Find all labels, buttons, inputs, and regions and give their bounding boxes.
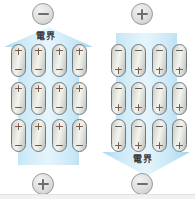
plus-icon bbox=[176, 67, 183, 74]
minus-icon bbox=[56, 104, 63, 111]
dipole bbox=[131, 119, 146, 152]
plus-icon bbox=[76, 123, 83, 130]
plus-icon bbox=[176, 142, 183, 149]
dipole bbox=[111, 82, 126, 115]
plus-icon bbox=[35, 85, 42, 92]
plus-icon bbox=[15, 48, 22, 55]
minus-icon bbox=[135, 48, 142, 55]
plus-icon bbox=[137, 9, 148, 20]
minus-icon bbox=[15, 142, 22, 149]
dipole bbox=[31, 119, 46, 152]
minus-icon bbox=[176, 48, 183, 55]
plus-icon bbox=[115, 104, 122, 111]
plus-icon bbox=[56, 123, 63, 130]
plus-icon bbox=[38, 179, 49, 190]
dipole bbox=[152, 82, 167, 115]
minus-icon bbox=[156, 85, 163, 92]
minus-icon bbox=[56, 142, 63, 149]
dipole bbox=[31, 44, 46, 77]
plus-icon bbox=[76, 48, 83, 55]
dipole bbox=[11, 119, 26, 152]
plus-icon bbox=[56, 48, 63, 55]
dipole bbox=[72, 44, 87, 77]
minus-icon bbox=[156, 123, 163, 130]
field-label-left: 電界 bbox=[36, 29, 55, 42]
plus-icon bbox=[135, 142, 142, 149]
dipole-grid-right bbox=[110, 44, 188, 154]
dipole bbox=[111, 44, 126, 77]
plus-icon bbox=[76, 85, 83, 92]
dipole bbox=[72, 119, 87, 152]
minus-icon bbox=[76, 104, 83, 111]
plus-icon bbox=[15, 123, 22, 130]
dipole bbox=[131, 82, 146, 115]
dipole bbox=[72, 82, 87, 115]
plus-icon bbox=[135, 67, 142, 74]
dipole bbox=[172, 44, 187, 77]
dipole bbox=[111, 119, 126, 152]
dipole bbox=[152, 44, 167, 77]
minus-icon bbox=[176, 85, 183, 92]
dipole bbox=[152, 119, 167, 152]
plus-icon bbox=[156, 67, 163, 74]
minus-icon bbox=[35, 142, 42, 149]
plus-icon bbox=[135, 104, 142, 111]
badge-bottom-left-plus bbox=[32, 173, 54, 195]
minus-icon bbox=[15, 67, 22, 74]
dipole bbox=[172, 82, 187, 115]
minus-icon bbox=[176, 123, 183, 130]
badge-top-left-minus bbox=[32, 3, 54, 25]
plus-icon bbox=[15, 85, 22, 92]
minus-icon bbox=[135, 123, 142, 130]
minus-icon bbox=[115, 48, 122, 55]
minus-icon bbox=[76, 142, 83, 149]
minus-icon bbox=[76, 67, 83, 74]
plus-icon bbox=[35, 48, 42, 55]
minus-icon bbox=[137, 179, 148, 190]
dipole bbox=[172, 119, 187, 152]
plus-icon bbox=[115, 67, 122, 74]
badge-bottom-right-minus bbox=[131, 173, 153, 195]
minus-icon bbox=[135, 85, 142, 92]
plus-icon bbox=[156, 142, 163, 149]
minus-icon bbox=[115, 123, 122, 130]
plus-icon bbox=[176, 104, 183, 111]
badge-top-right-plus bbox=[131, 3, 153, 25]
minus-icon bbox=[38, 9, 49, 20]
dipole-grid-left bbox=[10, 44, 88, 154]
dipole bbox=[52, 119, 67, 152]
minus-icon bbox=[15, 104, 22, 111]
plus-icon bbox=[56, 85, 63, 92]
minus-icon bbox=[35, 104, 42, 111]
minus-icon bbox=[56, 67, 63, 74]
minus-icon bbox=[35, 67, 42, 74]
page-edge-strip bbox=[0, 194, 195, 199]
minus-icon bbox=[156, 48, 163, 55]
dipole bbox=[52, 82, 67, 115]
plus-icon bbox=[156, 104, 163, 111]
diagram-canvas: 電界 電界 bbox=[0, 0, 195, 199]
plus-icon bbox=[115, 142, 122, 149]
dipole bbox=[52, 44, 67, 77]
dipole bbox=[11, 82, 26, 115]
dipole bbox=[11, 44, 26, 77]
dipole bbox=[31, 82, 46, 115]
plus-icon bbox=[35, 123, 42, 130]
dipole bbox=[131, 44, 146, 77]
minus-icon bbox=[115, 85, 122, 92]
